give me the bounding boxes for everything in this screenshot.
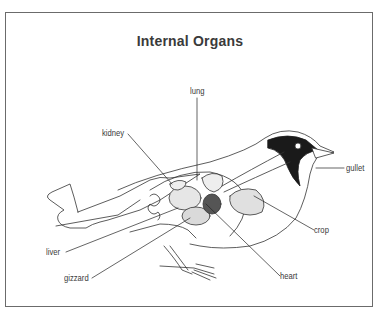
- organ-lung: [202, 173, 223, 192]
- beak: [312, 148, 334, 158]
- legs: [160, 246, 216, 280]
- label-liver: liver: [46, 247, 60, 257]
- organ-gullet: [222, 152, 290, 192]
- label-gizzard: gizzard: [64, 273, 89, 283]
- label-gullet: gullet: [346, 163, 364, 173]
- label-kidney: kidney: [102, 128, 124, 138]
- label-heart: heart: [280, 271, 297, 281]
- label-crop: crop: [314, 225, 329, 235]
- bird-illustration: [0, 0, 380, 315]
- label-lung: lung: [190, 86, 204, 96]
- organ-crop: [230, 189, 264, 215]
